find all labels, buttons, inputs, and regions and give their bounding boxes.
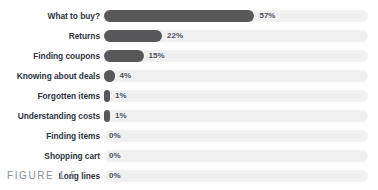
bar-track	[104, 170, 368, 182]
bar-fill	[104, 70, 115, 82]
bar-fill	[104, 30, 162, 42]
bar-value-label: 1%	[115, 106, 127, 126]
bar-track	[104, 130, 368, 142]
bar-value-label: 15%	[149, 46, 165, 66]
bar-track	[104, 90, 368, 102]
bar-fill	[104, 50, 144, 62]
bar-track	[104, 70, 368, 82]
bar-row: Finding coupons15%	[0, 46, 378, 66]
bar-track	[104, 50, 368, 62]
bar-track	[104, 30, 368, 42]
figure-caption: FIGURE 1.5	[7, 170, 77, 181]
bar-fill	[104, 110, 110, 122]
bar-category-label: What to buy?	[0, 6, 100, 26]
bar-category-label: Finding coupons	[0, 46, 100, 66]
bar-row: What to buy?57%	[0, 6, 378, 26]
bar-value-label: 4%	[120, 66, 132, 86]
bar-category-label: Returns	[0, 26, 100, 46]
bar-value-label: 0%	[109, 166, 121, 186]
bar-row: Returns22%	[0, 26, 378, 46]
bar-row: Forgotten items1%	[0, 86, 378, 106]
figure-container: What to buy?57%Returns22%Finding coupons…	[0, 0, 378, 190]
bar-category-label: Finding items	[0, 126, 100, 146]
bar-row: Knowing about deals4%	[0, 66, 378, 86]
bar-fill	[104, 10, 254, 22]
bar-track	[104, 150, 368, 162]
bar-category-label: Understanding costs	[0, 106, 100, 126]
bar-category-label: Knowing about deals	[0, 66, 100, 86]
horizontal-bar-chart: What to buy?57%Returns22%Finding coupons…	[0, 6, 378, 164]
bar-track	[104, 10, 368, 22]
bar-fill	[104, 90, 110, 102]
bar-row: Shopping cart0%	[0, 146, 378, 166]
bar-value-label: 57%	[259, 6, 275, 26]
bar-row: Finding items0%	[0, 126, 378, 146]
bar-value-label: 1%	[115, 86, 127, 106]
bar-value-label: 0%	[109, 126, 121, 146]
bar-category-label: Shopping cart	[0, 146, 100, 166]
bar-value-label: 22%	[167, 26, 183, 46]
bar-value-label: 0%	[109, 146, 121, 166]
bar-track	[104, 110, 368, 122]
bar-category-label: Forgotten items	[0, 86, 100, 106]
bar-row: Understanding costs1%	[0, 106, 378, 126]
